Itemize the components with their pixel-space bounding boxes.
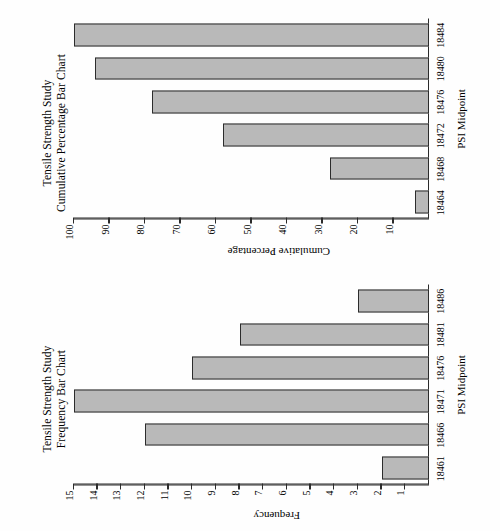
cumulative-percentage-bar-chart: Tensile Strength Study Cumulative Percen… <box>0 0 500 265</box>
axis-tick-label: 14 <box>87 490 98 516</box>
axis-tick-label: 4 <box>324 490 335 516</box>
bar-slot <box>74 384 429 417</box>
axis-tick-label: 90 <box>99 224 110 250</box>
bar-18468 <box>330 157 429 180</box>
axis-tick-label: 5 <box>300 490 311 516</box>
bar-18472 <box>223 123 429 146</box>
frequency-bar-chart: Tensile Strength Study Frequency Bar Cha… <box>0 266 500 531</box>
bar-18471 <box>74 389 429 412</box>
bar-18481 <box>240 323 429 346</box>
bar-slot <box>74 451 429 484</box>
bar-18461 <box>382 456 429 479</box>
bar-18476 <box>152 90 429 113</box>
axis-tick-label: 60 <box>206 224 217 250</box>
bar-18476 <box>192 356 429 379</box>
bar-slot <box>74 18 429 51</box>
axis-tick-label: 100 <box>64 224 75 250</box>
axis-tick-label: 20 <box>348 224 359 250</box>
frequency-y-axis-title: Frequency <box>254 509 300 521</box>
bar-slot <box>74 118 429 151</box>
bar-18464 <box>415 190 429 213</box>
axis-tick-label: 10 <box>383 224 394 250</box>
bar-18480 <box>95 57 429 80</box>
axis-tick-label: 1 <box>395 490 406 516</box>
frequency-plot-area: 123456789101112131415 <box>74 284 429 485</box>
bar-slot <box>74 317 429 350</box>
bar-slot <box>74 151 429 184</box>
cumulative-plot-area: 102030405060708090100 <box>74 18 429 219</box>
cumulative-x-axis-title: PSI Midpoint <box>455 18 467 219</box>
axis-tick-label: 3 <box>348 490 359 516</box>
bar-18484 <box>74 23 429 46</box>
bar-slot <box>74 417 429 450</box>
axis-tick-label: 15 <box>64 490 75 516</box>
bar-slot <box>74 351 429 384</box>
cumulative-y-axis-title: Cumulative Percentage <box>228 245 330 257</box>
bar-slot <box>74 85 429 118</box>
frequency-bars <box>74 284 429 484</box>
axis-tick-label: 12 <box>135 490 146 516</box>
axis-tick-label: 9 <box>206 490 217 516</box>
axis-tick-label: 8 <box>229 490 240 516</box>
bar-18466 <box>145 423 429 446</box>
cumulative-title-line-1: Tensile Strength Study <box>41 0 55 265</box>
cumulative-bars <box>74 18 429 218</box>
bar-18486 <box>358 289 429 312</box>
axis-tick-label: 10 <box>182 490 193 516</box>
bar-slot <box>74 185 429 218</box>
bar-slot <box>74 284 429 317</box>
frequency-x-axis-title: PSI Midpoint <box>455 284 467 485</box>
axis-tick-label: 13 <box>111 490 122 516</box>
axis-tick-label: 2 <box>371 490 382 516</box>
bar-slot <box>74 51 429 84</box>
axis-tick-label: 70 <box>170 224 181 250</box>
scanned-page: Tensile Strength Study Frequency Bar Cha… <box>0 0 500 531</box>
frequency-title-line-1: Tensile Strength Study <box>41 266 55 531</box>
axis-tick-label: 80 <box>135 224 146 250</box>
axis-tick-label: 11 <box>158 490 169 516</box>
